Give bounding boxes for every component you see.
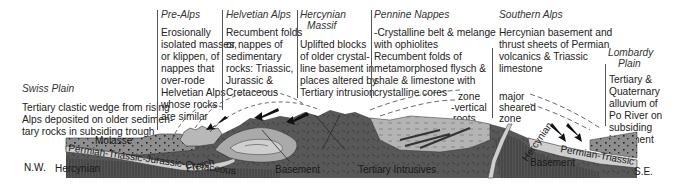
basement-label: Basement [275, 164, 320, 175]
molasse-label: Molasse [95, 135, 133, 146]
nw-label: N.W. [24, 162, 46, 173]
hercynian-left-label: Hercynian [55, 163, 100, 174]
basement-right-label: Basement [530, 157, 575, 168]
tertiary-intrusives-label: Tertiary Intrusives [358, 164, 436, 175]
cross-section-diagram: Molasse Permian-Triassic-Jurassic-Cretac… [0, 0, 679, 187]
se-label: S.E. [634, 166, 653, 177]
